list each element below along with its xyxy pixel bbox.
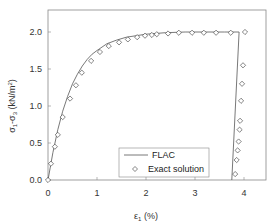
diamond-marker-icon [237, 118, 242, 123]
diamond-marker-icon [201, 30, 206, 35]
diamond-marker-icon [45, 177, 50, 182]
diamond-marker-icon [213, 30, 218, 35]
diamond-marker-icon [228, 30, 233, 35]
diamond-marker-icon [236, 139, 241, 144]
diamond-marker-icon [189, 30, 194, 35]
legend-exact-label: Exact solution [148, 164, 204, 174]
diamond-marker-icon [238, 98, 243, 103]
diamond-marker-icon [89, 58, 94, 63]
diamond-marker-icon [240, 63, 245, 68]
x-axis-label-unit: (%) [141, 211, 158, 221]
stress-strain-chart: 01234 0.00.51.01.52.0 ε1 (%) σ1-σ3 (kN/m… [0, 0, 279, 224]
diamond-marker-icon [176, 30, 181, 35]
diamond-marker-icon [52, 144, 57, 149]
diamond-marker-icon [233, 171, 238, 176]
y-tick-label: 0.0 [29, 175, 42, 185]
y-tick-label: 0.5 [29, 138, 42, 148]
diamond-marker-icon [239, 81, 244, 86]
y-tick-label: 2.0 [29, 27, 42, 37]
diamond-marker-icon [235, 148, 240, 153]
diamond-marker-icon [79, 70, 84, 75]
diamond-marker-icon [234, 157, 239, 162]
diamond-marker-icon [242, 29, 247, 34]
diamond-marker-icon [106, 43, 111, 48]
diamond-marker-icon [154, 32, 159, 37]
diamond-marker-icon [237, 127, 242, 132]
x-tick-label: 4 [241, 188, 246, 198]
y-tick-label: 1.0 [29, 101, 42, 111]
diamond-marker-icon [48, 161, 53, 166]
diamond-marker-icon [149, 32, 154, 37]
x-tick-label: 3 [192, 188, 197, 198]
legend-flac-label: FLAC [152, 150, 176, 160]
x-tick-label: 2 [143, 188, 148, 198]
legend: FLAC Exact solution [119, 148, 209, 177]
diamond-marker-icon [116, 40, 121, 45]
diamond-marker-icon [73, 83, 78, 88]
diamond-marker-icon [165, 31, 170, 36]
y-tick-label: 1.5 [29, 64, 42, 74]
diamond-marker-icon [67, 96, 72, 101]
x-axis-label: ε1 (%) [134, 211, 158, 222]
y-axis-label: σ1-σ3 (kN/m2) [7, 79, 18, 133]
x-tick-label: 0 [45, 188, 50, 198]
x-tick-label: 1 [94, 188, 99, 198]
y-label-close: ) [7, 79, 17, 82]
y-label-unit: (kN/m [7, 86, 17, 113]
